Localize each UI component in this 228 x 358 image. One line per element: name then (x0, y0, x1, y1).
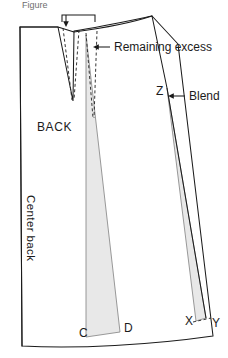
measure-bracket-icon (62, 15, 95, 22)
arrow-left-icon-remaining-excess (93, 44, 99, 50)
point-label-c: C (79, 326, 88, 340)
dart-solid (58, 27, 74, 101)
arrow-down-icon (63, 21, 69, 27)
center-back-label: Center back (25, 195, 37, 261)
point-label-d: D (124, 321, 133, 335)
waistline-mid (74, 16, 152, 31)
figure-caption: Figure (22, 0, 48, 10)
dashed-dart-left (63, 28, 72, 100)
point-label-x: X (185, 314, 193, 328)
dashed-dart-right (74, 30, 79, 100)
wedge-center (86, 35, 120, 337)
point-label-z: Z (156, 84, 163, 98)
pattern-drawing: Figure Remaining excess Blend BACK Cente… (0, 0, 228, 358)
point-label-y: Y (212, 316, 220, 330)
pattern-diagram: Figure Remaining excess Blend BACK Cente… (0, 0, 228, 358)
remaining-excess-label: Remaining excess (114, 40, 212, 54)
pattern-outline (20, 16, 213, 347)
blend-label: Blend (189, 89, 220, 103)
piece-name-label: BACK (37, 120, 72, 134)
center-back-line (20, 27, 22, 346)
